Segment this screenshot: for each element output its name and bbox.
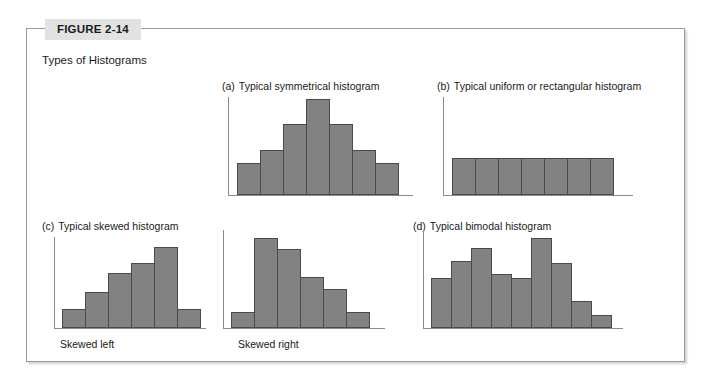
bar (431, 278, 452, 328)
panel-a: (a)Typical symmetrical histogram (222, 80, 417, 200)
bar (590, 158, 614, 195)
bar (277, 249, 301, 328)
bar (283, 124, 307, 195)
bar (131, 263, 155, 328)
panel-b-tag: (b) (437, 80, 450, 92)
panel-a-title: Typical symmetrical histogram (239, 80, 380, 92)
bar (352, 150, 376, 195)
panel-b-bars (452, 97, 613, 195)
bar (475, 158, 499, 195)
panel-a-bars (237, 97, 398, 195)
bar (237, 163, 261, 195)
bar (154, 247, 178, 328)
bar (531, 238, 552, 328)
bar (254, 238, 278, 328)
panel-c-right-plot (223, 230, 385, 329)
bar (567, 158, 591, 195)
panel-c-title: Typical skewed histogram (58, 220, 178, 232)
panel-b-label: (b)Typical uniform or rectangular histog… (437, 80, 641, 92)
panel-c-left-sublabel: Skewed left (60, 338, 114, 350)
bar (329, 124, 353, 195)
bar (544, 158, 568, 195)
bar (231, 312, 255, 328)
bar (451, 261, 472, 328)
panel-c-left-plot (54, 237, 206, 329)
bar (346, 312, 370, 328)
panel-d-y-axis (423, 230, 424, 329)
bar (521, 158, 545, 195)
bar (62, 309, 86, 328)
bar (511, 278, 532, 328)
panel-b-y-axis (443, 97, 444, 196)
bar (491, 274, 512, 328)
panel-a-plot (228, 97, 413, 196)
bar (551, 263, 572, 328)
bar (498, 158, 522, 195)
bar (452, 158, 476, 195)
panel-b: (b)Typical uniform or rectangular histog… (437, 80, 652, 200)
bar (177, 309, 201, 328)
panel-d-plot (423, 230, 623, 329)
bar (571, 301, 592, 328)
bar (591, 315, 612, 328)
panel-c-label: (c)Typical skewed histogram (42, 220, 178, 232)
panel-c-tag: (c) (42, 220, 54, 232)
panel-c-right-sublabel: Skewed right (238, 338, 299, 350)
figure-number-badge: FIGURE 2-14 (45, 19, 141, 40)
panel-b-title: Typical uniform or rectangular histogram (454, 80, 641, 92)
bar (375, 163, 399, 195)
panel-c-left-bars (62, 237, 200, 328)
bar (323, 289, 347, 328)
panel-d: (d)Typical bimodal histogram (413, 220, 643, 345)
figure-caption: Types of Histograms (42, 54, 147, 66)
panel-a-label: (a)Typical symmetrical histogram (222, 80, 379, 92)
panel-d-x-axis (423, 328, 623, 329)
panel-c-right-y-axis (223, 230, 224, 329)
panel-c-left-x-axis (54, 328, 206, 329)
panel-d-bars (431, 230, 611, 328)
panel-c: (c)Typical skewed histogram Skewed left … (42, 220, 392, 360)
bar (108, 273, 132, 328)
panel-b-x-axis (443, 195, 633, 196)
panel-c-right-bars (231, 230, 369, 328)
bar (300, 277, 324, 328)
panel-a-tag: (a) (222, 80, 235, 92)
panel-a-y-axis (228, 97, 229, 196)
bar (260, 150, 284, 195)
panel-b-plot (443, 97, 633, 196)
panel-c-right-x-axis (223, 328, 385, 329)
panel-a-x-axis (228, 195, 413, 196)
bar (306, 99, 330, 195)
bar (471, 248, 492, 328)
panel-c-left-y-axis (54, 237, 55, 329)
bar (85, 292, 109, 328)
